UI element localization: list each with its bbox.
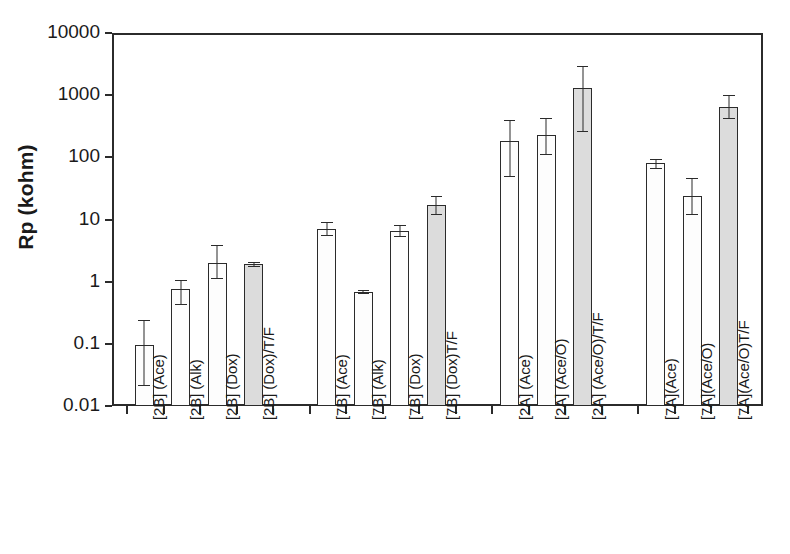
error-bar xyxy=(650,159,662,169)
y-tick-label: 0.01 xyxy=(10,394,100,416)
error-bar-cap-lower xyxy=(650,168,662,169)
error-bar-cap-lower xyxy=(211,278,223,279)
x-axis-category-label: [7A](Ace/O)T/F xyxy=(735,321,752,420)
chart-figure: Rp (kohm) 1000010001001010.10.01 [2B] (A… xyxy=(0,0,790,554)
x-axis-category-label: [2B] (Alk) xyxy=(187,359,204,420)
error-bar-cap-lower xyxy=(540,154,552,155)
error-bar-cap-lower xyxy=(138,385,150,386)
error-bar-cap-lower xyxy=(686,214,698,215)
y-tick-mark xyxy=(105,156,112,158)
y-tick-mark xyxy=(105,343,112,345)
x-axis-category-label: [7A](Ace/O) xyxy=(698,343,715,420)
y-axis-label: Rp (kohm) xyxy=(14,107,38,287)
error-bar xyxy=(321,222,333,235)
error-bar-cap-lower xyxy=(723,118,735,119)
error-bar-stem xyxy=(546,118,547,155)
y-tick-label: 10000 xyxy=(10,21,100,43)
y-tick-mark xyxy=(105,405,112,407)
error-bar xyxy=(394,225,406,237)
x-axis-category-label: [2A] (Ace) xyxy=(516,354,533,420)
error-bar-cap-lower xyxy=(248,266,260,267)
error-bar-cap-lower xyxy=(504,176,516,177)
x-axis-category-label: [2B] (Dox)/T/F xyxy=(260,327,277,420)
x-axis-category-label: [7A](Ace) xyxy=(662,358,679,420)
error-bar-stem xyxy=(728,95,729,118)
error-bar-cap-lower xyxy=(321,235,333,236)
x-axis-category-label: [7B] (Dox) xyxy=(406,353,423,420)
y-tick-label: 10 xyxy=(10,208,100,230)
error-bar xyxy=(686,178,698,214)
error-bar xyxy=(723,95,735,118)
x-axis-category-label: [7B] (Ace) xyxy=(333,354,350,420)
y-tick-mark xyxy=(105,32,112,34)
x-tick-mark xyxy=(309,406,311,414)
error-bar xyxy=(358,290,370,294)
error-bar xyxy=(211,245,223,279)
error-bar xyxy=(540,118,552,155)
y-tick-label: 1000 xyxy=(10,83,100,105)
y-tick-label: 1 xyxy=(10,270,100,292)
x-axis-category-label: [2B] (Ace) xyxy=(150,354,167,420)
error-bar-stem xyxy=(582,66,583,132)
error-bar xyxy=(138,320,150,386)
x-axis-category-label: [7B] (Alk) xyxy=(369,359,386,420)
error-bar xyxy=(175,280,187,305)
error-bar-stem xyxy=(180,280,181,305)
error-bar-stem xyxy=(436,196,437,215)
error-bar-cap-lower xyxy=(358,293,370,294)
x-tick-mark xyxy=(126,406,128,414)
error-bar xyxy=(504,120,516,177)
x-axis-category-label: [7B] (Dox)T/F xyxy=(443,331,460,420)
x-tick-mark xyxy=(491,406,493,414)
error-bar-stem xyxy=(509,120,510,177)
y-tick-label: 100 xyxy=(10,145,100,167)
x-axis-category-label: [2B] (Dox) xyxy=(223,353,240,420)
error-bar-cap-lower xyxy=(175,304,187,305)
y-tick-mark xyxy=(105,94,112,96)
error-bar-cap-lower xyxy=(431,214,443,215)
error-bar xyxy=(248,262,260,266)
y-tick-mark xyxy=(105,281,112,283)
x-tick-mark xyxy=(637,406,639,414)
error-bar-stem xyxy=(326,222,327,235)
error-bar xyxy=(577,66,589,132)
y-tick-label: 0.1 xyxy=(10,332,100,354)
error-bar-stem xyxy=(692,178,693,214)
error-bar xyxy=(431,196,443,215)
error-bar-cap-lower xyxy=(394,236,406,237)
error-bar-stem xyxy=(217,245,218,279)
x-axis-category-label: [2A] (Ace/O)/T/F xyxy=(589,312,606,420)
x-axis-category-label: [2A] (Ace/O) xyxy=(552,339,569,420)
y-tick-mark xyxy=(105,219,112,221)
error-bar-cap-lower xyxy=(577,131,589,132)
error-bar-stem xyxy=(144,320,145,386)
